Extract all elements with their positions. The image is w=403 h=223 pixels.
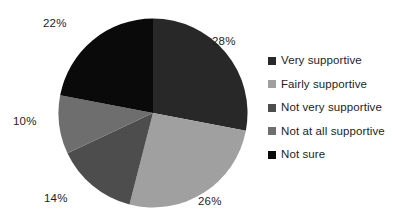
legend-swatch-icon [268,127,276,135]
slice-data-label-fairly-supportive: 26% [198,196,222,208]
legend-item-not-very-supportive[interactable]: Not very supportive [268,96,401,120]
legend-swatch-icon [268,57,276,65]
slice-data-label-very-supportive: 28% [212,36,236,48]
chart-legend: Very supportive Fairly supportive Not ve… [268,49,401,167]
slice-data-label-not-sure: 22% [43,18,67,30]
pie-chart-figure: 28% 26% 14% 10% 22% Very supportive Fair… [0,0,403,223]
legend-swatch-icon [268,80,276,88]
legend-item-label: Not sure [281,149,325,161]
legend-item-not-at-all-supportive[interactable]: Not at all supportive [268,120,401,144]
legend-swatch-icon [268,151,276,159]
slice-data-label-not-very-supportive: 14% [44,193,68,205]
legend-item-label: Not at all supportive [281,126,385,138]
legend-item-label: Fairly supportive [281,79,367,91]
legend-swatch-icon [268,104,276,112]
legend-item-fairly-supportive[interactable]: Fairly supportive [268,73,401,97]
legend-item-not-sure[interactable]: Not sure [268,143,401,167]
slice-data-label-not-at-all-supportive: 10% [13,116,37,128]
pie-plot-area: 28% 26% 14% 10% 22% [0,0,262,223]
legend-item-very-supportive[interactable]: Very supportive [268,49,401,73]
legend-item-label: Very supportive [281,55,362,67]
legend-item-label: Not very supportive [281,102,382,114]
